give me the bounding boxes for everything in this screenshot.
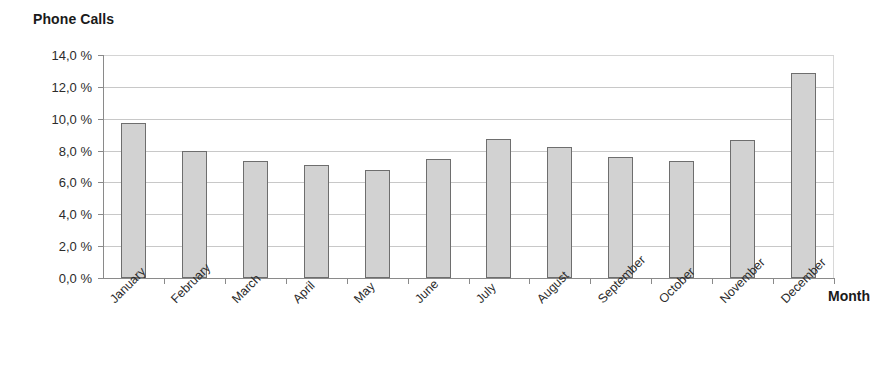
y-axis-tick-label: 0,0 % [59,271,92,286]
x-axis-label-july: July [473,280,499,306]
x-axis-label-may: May [351,279,378,306]
y-axis-tick [98,151,103,152]
y-axis-tick-label: 8,0 % [59,143,92,158]
phone-calls-bar-chart: Phone Calls 0,0 %2,0 %4,0 %6,0 %8,0 %10,… [0,0,893,384]
x-axis-tick [469,279,470,284]
x-axis-tick [347,279,348,284]
x-axis-tick [651,279,652,284]
x-axis-label-april: April [290,278,318,306]
gridline [103,119,834,120]
y-axis-tick [98,278,103,279]
bar-april [304,165,329,278]
gridline [103,151,834,152]
gridline [103,182,834,183]
bar-july [486,139,511,278]
x-axis-tick [529,279,530,284]
y-axis-tick-label: 2,0 % [59,239,92,254]
y-axis-tick-label: 10,0 % [52,111,92,126]
y-axis-tick-label: 14,0 % [52,48,92,63]
x-axis-tick [712,279,713,284]
y-axis-tick [98,246,103,247]
y-axis-tick-label: 12,0 % [52,79,92,94]
bar-december [791,73,816,278]
x-axis-tick [773,279,774,284]
x-axis-tick [590,279,591,284]
plot-area [103,55,834,278]
bar-january [121,123,146,278]
y-axis-tick [98,55,103,56]
bar-february [182,151,207,278]
plot-right-border [833,55,834,278]
x-axis-label-june: June [412,277,441,306]
bar-march [243,161,268,278]
chart-title: Phone Calls [33,11,114,27]
x-axis-title: Month [828,288,870,304]
gridline [103,246,834,247]
x-axis-tick [408,279,409,284]
y-axis-tick [98,87,103,88]
y-axis-tick [98,214,103,215]
x-axis-tick [834,279,835,284]
bar-may [365,170,390,278]
gridline [103,214,834,215]
gridline [103,55,834,56]
y-axis-tick [98,182,103,183]
y-axis-tick-label: 4,0 % [59,207,92,222]
x-axis-tick [164,279,165,284]
bar-june [426,159,451,278]
x-axis-tick [286,279,287,284]
x-axis-tick [225,279,226,284]
y-axis-tick-label: 6,0 % [59,175,92,190]
gridline [103,87,834,88]
y-axis-tick [98,119,103,120]
y-axis-line [103,55,104,279]
bar-august [547,147,572,278]
bar-november [730,140,755,278]
bar-october [669,161,694,278]
